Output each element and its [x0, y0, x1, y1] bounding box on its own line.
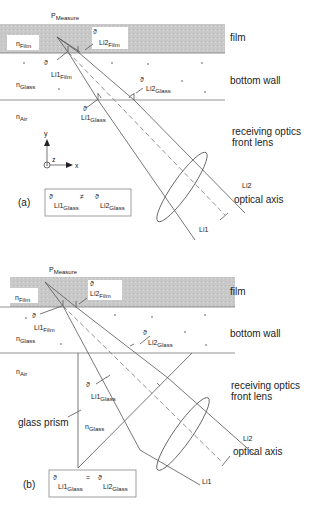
svg-text:Li1Film: Li1Film	[51, 71, 72, 80]
svg-text:front lens: front lens	[232, 137, 273, 148]
svg-text:PMeasure: PMeasure	[49, 266, 78, 275]
svg-text:nGlass: nGlass	[16, 81, 35, 90]
svg-text:ϑ: ϑ	[49, 193, 53, 200]
svg-text:receiving optics: receiving optics	[232, 126, 301, 137]
svg-text:Li2Glass: Li2Glass	[146, 85, 171, 94]
svg-text:nAir: nAir	[16, 113, 27, 122]
svg-text:ϑ: ϑ	[90, 280, 94, 287]
svg-text:ϑ: ϑ	[140, 76, 144, 83]
glass-prism	[78, 353, 192, 468]
svg-text:ϑ: ϑ	[32, 312, 36, 319]
svg-text:receiving optics: receiving optics	[231, 380, 300, 391]
panel-a: PMeasure nFilm ϑ Li2Film ϑ Li1Film nGlas…	[0, 12, 301, 240]
ray-li2	[57, 37, 245, 213]
svg-text:ϑ: ϑ	[83, 105, 87, 112]
svg-text:ϑ: ϑ	[93, 28, 97, 35]
svg-text:ϑ: ϑ	[44, 59, 48, 66]
label-glass-prism: glass prism	[18, 417, 69, 428]
panel-b: PMeasure nFilm ϑ Li2Film ϑ Li1Film nGlas…	[0, 266, 300, 497]
label-film: film	[230, 286, 246, 297]
svg-text:ϑ: ϑ	[143, 329, 147, 336]
front-lens	[151, 147, 214, 226]
svg-text:nAir: nAir	[16, 368, 27, 377]
svg-text:ϑ: ϑ	[86, 381, 90, 388]
svg-text:Li1Film: Li1Film	[34, 324, 55, 333]
svg-text:Li1Glass: Li1Glass	[81, 114, 106, 123]
svg-text:front lens: front lens	[231, 391, 272, 402]
label-film: film	[230, 32, 246, 43]
svg-text:Li2Glass: Li2Glass	[148, 339, 173, 348]
svg-text:optical axis: optical axis	[234, 194, 283, 205]
svg-text:≠: ≠	[80, 193, 84, 200]
label-bottom-wall: bottom wall	[230, 328, 281, 339]
svg-text:ϑ: ϑ	[53, 474, 57, 481]
svg-text:(b): (b)	[23, 479, 35, 490]
svg-text:optical axis: optical axis	[233, 446, 282, 457]
label-bottom-wall: bottom wall	[230, 75, 281, 86]
svg-text:nGlass: nGlass	[85, 423, 104, 432]
svg-text:=: =	[86, 474, 90, 481]
svg-text:PMeasure: PMeasure	[51, 12, 80, 21]
svg-text:x: x	[75, 162, 79, 169]
relation-box-b: ϑ = ϑ Li1Glass Li2Glass	[49, 470, 136, 497]
svg-text:Li2: Li2	[243, 435, 252, 442]
svg-text:ϑ: ϑ	[98, 474, 102, 481]
svg-text:ϑ: ϑ	[95, 193, 99, 200]
svg-text:Li2: Li2	[242, 182, 251, 189]
svg-text:y: y	[44, 130, 48, 138]
coordinate-axes: y z x	[44, 130, 79, 169]
svg-text:Li1Glass: Li1Glass	[91, 393, 116, 402]
svg-text:(a): (a)	[18, 197, 30, 208]
relation-box-a: ϑ ≠ ϑ Li1Glass Li2Glass	[45, 189, 131, 216]
svg-text:z: z	[52, 156, 56, 163]
svg-text:Li1: Li1	[199, 226, 208, 233]
front-lens	[150, 393, 215, 475]
svg-text:nGlass: nGlass	[16, 335, 35, 344]
svg-text:Li1: Li1	[202, 478, 211, 485]
